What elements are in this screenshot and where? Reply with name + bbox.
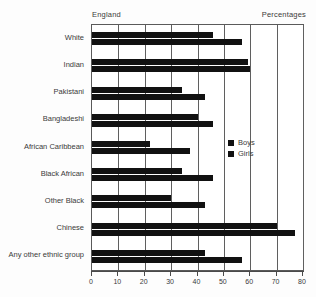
- axis-tick-label: 70: [272, 278, 280, 285]
- axis-tick-label: 60: [245, 278, 253, 285]
- bar-group: [92, 59, 303, 72]
- bar-boys: [92, 250, 205, 256]
- bar-girls: [92, 257, 242, 263]
- axis-tick: [91, 271, 92, 276]
- bar-girls: [92, 94, 205, 100]
- category-label: Any other ethnic group: [9, 250, 84, 259]
- plot-area: [91, 24, 304, 271]
- axis-tick-label: 0: [89, 278, 93, 285]
- axis-tick: [170, 271, 171, 276]
- bar-boys: [92, 141, 150, 147]
- legend-label: Girls: [238, 150, 253, 158]
- category-label: Bangladeshi: [43, 114, 84, 123]
- axis-tick: [302, 271, 303, 276]
- gridline: [303, 25, 304, 270]
- category-axis-labels: WhiteIndianPakistaniBangladeshiAfrican C…: [0, 24, 87, 271]
- category-label: Indian: [64, 60, 84, 69]
- bar-boys: [92, 32, 213, 38]
- bar-group: [92, 195, 303, 208]
- axis-tick: [276, 271, 277, 276]
- bar-group: [92, 168, 303, 181]
- bar-boys: [92, 59, 248, 65]
- bar-girls: [92, 202, 205, 208]
- axis-tick: [144, 271, 145, 276]
- bar-group: [92, 87, 303, 100]
- category-label: White: [65, 33, 84, 42]
- axis-tick-label: 40: [193, 278, 201, 285]
- bar-girls: [92, 148, 190, 154]
- region-label: England: [92, 10, 121, 19]
- category-label: Black African: [41, 169, 84, 178]
- axis-tick-label: 30: [166, 278, 174, 285]
- bar-boys: [92, 195, 171, 201]
- bar-boys: [92, 223, 277, 229]
- bar-boys: [92, 114, 198, 120]
- legend-item: Girls: [228, 150, 255, 158]
- bar-boys: [92, 168, 182, 174]
- chart-legend: BoysGirls: [228, 139, 255, 161]
- bar-girls: [92, 66, 250, 72]
- category-label: Chinese: [56, 223, 84, 232]
- category-label: Other Black: [45, 196, 84, 205]
- bar-group: [92, 141, 303, 154]
- bar-groups: [92, 25, 303, 270]
- axis-tick-label: 20: [140, 278, 148, 285]
- bar-girls: [92, 230, 295, 236]
- bar-group: [92, 114, 303, 127]
- axis-tick: [197, 271, 198, 276]
- legend-label: Boys: [238, 139, 255, 147]
- axis-tick-label: 80: [298, 278, 306, 285]
- axis-line: [91, 271, 304, 272]
- value-axis-tick-labels: 01020304050607080: [91, 278, 304, 290]
- axis-tick: [117, 271, 118, 276]
- bar-girls: [92, 121, 213, 127]
- bar-group: [92, 223, 303, 236]
- bar-group: [92, 32, 303, 45]
- axis-tick: [223, 271, 224, 276]
- legend-swatch: [228, 151, 234, 157]
- bar-group: [92, 250, 303, 263]
- bar-girls: [92, 175, 213, 181]
- legend-item: Boys: [228, 139, 255, 147]
- units-label: Percentages: [262, 10, 306, 19]
- category-label: Pakistani: [54, 87, 84, 96]
- bar-chart: England Percentages WhiteIndianPakistani…: [0, 0, 316, 297]
- axis-tick-label: 10: [113, 278, 121, 285]
- axis-tick: [249, 271, 250, 276]
- category-label: African Caribbean: [24, 142, 84, 151]
- legend-swatch: [228, 140, 234, 146]
- bar-girls: [92, 39, 242, 45]
- value-axis: [91, 271, 304, 277]
- axis-tick-label: 50: [219, 278, 227, 285]
- bar-boys: [92, 87, 182, 93]
